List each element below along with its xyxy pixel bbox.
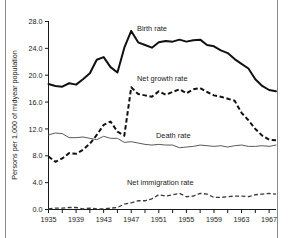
y-tick-label: 16.0 <box>29 98 43 107</box>
x-tick-label: 1943 <box>96 215 112 224</box>
x-tick-label: 1967 <box>261 215 277 224</box>
label-birth-rate: Birth rate <box>137 24 167 33</box>
label-death-rate: Death rate <box>156 131 191 140</box>
series-line-net-immigration-rate <box>49 193 277 208</box>
x-tick-label: 1935 <box>41 215 57 224</box>
chart-figure: 0.04.08.012.016.020.024.028.0 1935193919… <box>0 0 290 238</box>
series-line-net-growth-rate <box>49 87 277 162</box>
y-tick-group: 0.04.08.012.016.020.024.028.0 <box>29 17 49 214</box>
x-tick-label: 1955 <box>178 215 194 224</box>
y-tick-label: 28.0 <box>29 17 43 26</box>
x-tick-label: 1959 <box>206 215 222 224</box>
label-net-growth-rate: Net growth rate <box>137 74 188 83</box>
y-axis-title: Persons per 1,000 of midyear population <box>10 50 19 179</box>
x-tick-label: 1947 <box>123 215 139 224</box>
y-tick-label: 0.0 <box>33 205 43 214</box>
x-tick-label: 1939 <box>68 215 84 224</box>
y-tick-label: 12.0 <box>29 125 43 134</box>
y-tick-label: 24.0 <box>29 44 43 53</box>
x-tick-label: 1951 <box>151 215 167 224</box>
label-net-immigration-rate: Net immigration rate <box>127 178 194 187</box>
x-tick-group: 193519391943194719511955195919631967 <box>41 210 278 224</box>
y-tick-label: 8.0 <box>33 151 43 160</box>
x-tick-label: 1963 <box>234 215 250 224</box>
y-tick-label: 4.0 <box>33 178 43 187</box>
y-tick-label: 20.0 <box>29 71 43 80</box>
